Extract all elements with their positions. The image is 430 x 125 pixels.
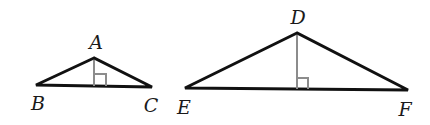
vertex-label-d: D [289,6,305,28]
triangle-abc: A B C [30,31,159,116]
triangle-def: D E F [176,6,412,120]
similar-triangles-diagram: A B C D E F [0,0,430,125]
vertex-label-e: E [176,96,191,118]
vertex-label-c: C [144,94,159,116]
vertex-label-a: A [87,31,103,53]
right-angle-marker-def [297,78,308,89]
vertex-label-f: F [397,98,412,120]
right-angle-marker-abc [94,74,106,86]
vertex-label-b: B [30,92,45,114]
